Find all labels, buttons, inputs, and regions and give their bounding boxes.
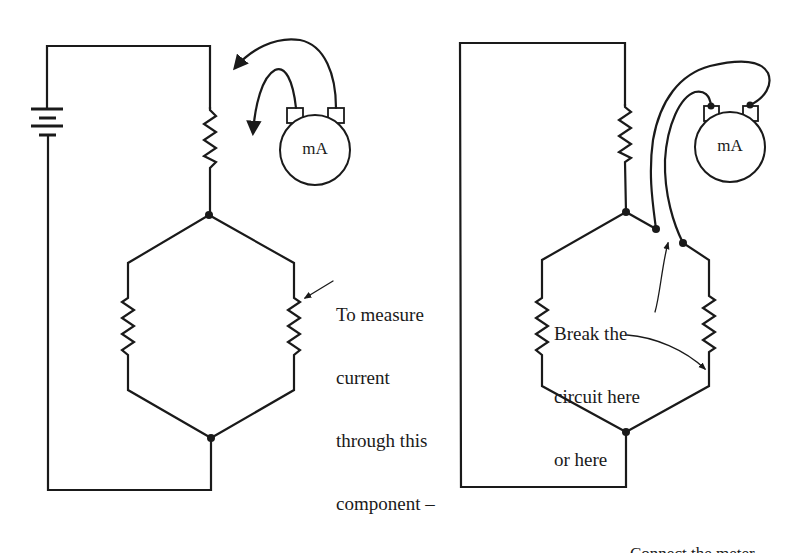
meter-label-right: mA bbox=[700, 136, 760, 156]
break-segment-left bbox=[626, 212, 656, 229]
break-annotation: Break the circuit here or here bbox=[554, 281, 640, 491]
caption-line: Connect the meter bbox=[630, 544, 758, 553]
series-resistor-icon bbox=[204, 108, 216, 215]
annotation-line: current bbox=[336, 367, 435, 388]
annotation-line: circuit here bbox=[554, 386, 640, 407]
annotation-line: or here bbox=[554, 449, 640, 470]
left-top-wire bbox=[47, 46, 210, 108]
annotation-line: Break the bbox=[554, 323, 640, 344]
annotation-line: To measure bbox=[336, 304, 435, 325]
bridge-right-branch bbox=[209, 215, 300, 438]
pointer-arrow bbox=[305, 281, 333, 298]
bridge-left-branch bbox=[122, 215, 211, 438]
series-resistor-icon bbox=[619, 105, 631, 212]
left-circuit bbox=[31, 39, 350, 490]
annotation-line: through this bbox=[336, 430, 435, 451]
connect-meter-caption: Connect the meter to bridge the break bbox=[630, 506, 758, 553]
battery-icon bbox=[31, 109, 63, 135]
measure-annotation: To measure current through this componen… bbox=[336, 262, 435, 535]
annotation-line: component – bbox=[336, 493, 435, 514]
break-here-arrow bbox=[655, 243, 668, 312]
junction-node-bottom bbox=[207, 434, 215, 442]
meter-label-left: mA bbox=[285, 139, 345, 159]
